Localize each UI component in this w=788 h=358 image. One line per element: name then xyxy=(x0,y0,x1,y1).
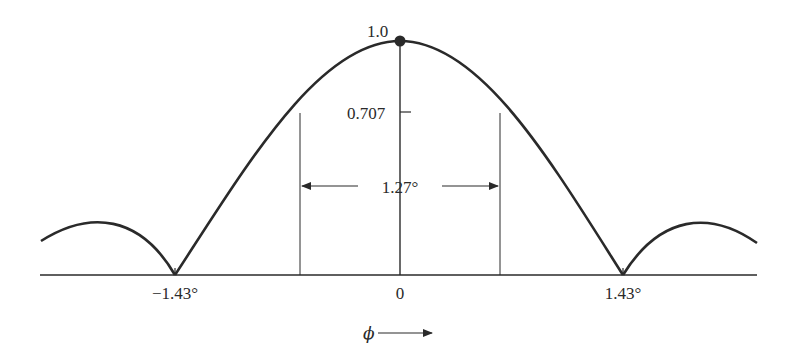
center-label: 0 xyxy=(396,284,405,303)
right-null-label: 1.43° xyxy=(605,284,642,303)
phi-axis-label: ϕ xyxy=(363,323,375,343)
left-null-label: −1.43° xyxy=(152,284,198,303)
radiation-pattern-diagram: 1.0 0.707 1.27° −1.43° 0 1.43° ϕ xyxy=(0,0,788,358)
main-lobe-curve xyxy=(175,41,623,275)
half-power-label: 0.707 xyxy=(347,104,386,123)
left-side-lobe-curve xyxy=(41,222,175,275)
peak-label: 1.0 xyxy=(367,22,388,41)
right-side-lobe-curve xyxy=(623,223,757,275)
beamwidth-label: 1.27° xyxy=(382,178,419,197)
peak-dot xyxy=(395,36,406,47)
